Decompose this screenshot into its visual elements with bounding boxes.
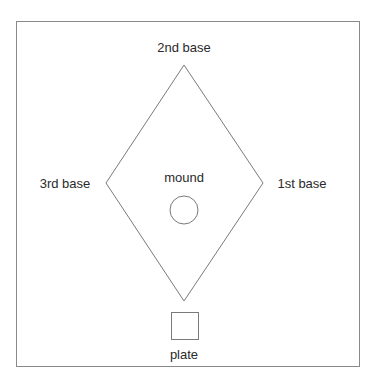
frame-border xyxy=(17,22,360,367)
label-second-base: 2nd base xyxy=(157,40,211,55)
label-first-base: 1st base xyxy=(277,176,326,191)
label-plate: plate xyxy=(170,347,198,362)
label-mound: mound xyxy=(164,170,204,185)
home-plate-icon xyxy=(172,313,199,340)
pitchers-mound-icon xyxy=(170,196,198,224)
label-third-base: 3rd base xyxy=(40,176,91,191)
baseball-diagram: 2nd base 3rd base 1st base mound plate xyxy=(0,0,376,388)
